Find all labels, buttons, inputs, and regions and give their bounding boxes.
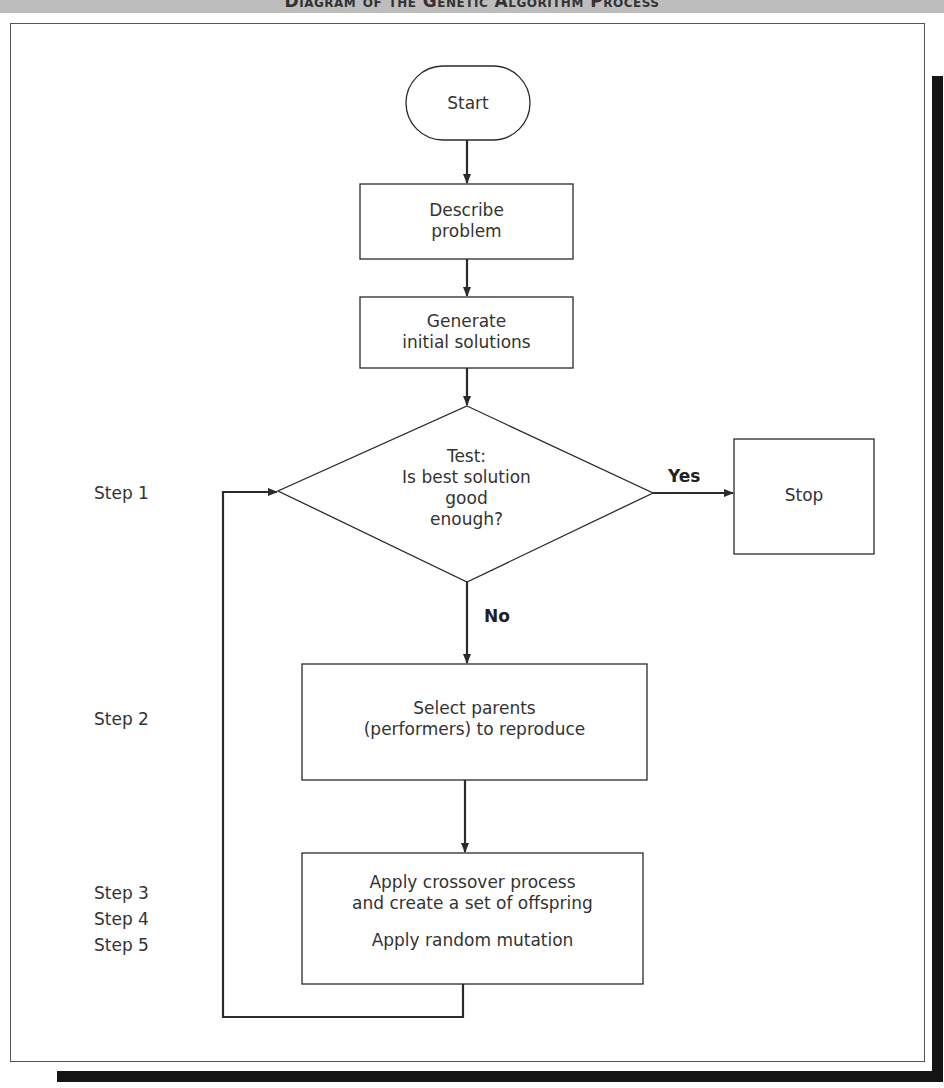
describe-label-line1: Describe <box>360 200 573 221</box>
decision-diamond: Test: Is best solution good enough? <box>360 446 573 530</box>
yes-edge-label: Yes <box>668 466 700 486</box>
select-box: Select parents (performers) to reproduce <box>302 698 647 740</box>
step-2-label: Step 2 <box>94 706 149 732</box>
select-label-line1: Select parents <box>302 698 647 719</box>
apply-label-line1: Apply crossover process <box>302 872 643 893</box>
describe-box: Describe problem <box>360 200 573 242</box>
test-label-line4: enough? <box>360 509 573 530</box>
step-3-label: Step 3 <box>94 880 149 906</box>
generate-box: Generate initial solutions <box>360 311 573 353</box>
test-label-line1: Test: <box>360 446 573 467</box>
no-edge-label: No <box>484 606 510 626</box>
apply-label-line3: Apply random mutation <box>302 930 643 951</box>
apply-box: Apply crossover process and create a set… <box>302 872 643 951</box>
select-label-line2: (performers) to reproduce <box>302 719 647 740</box>
apply-label-line2: and create a set of offspring <box>302 893 643 914</box>
start-label: Start <box>406 93 530 114</box>
step-5-label: Step 5 <box>94 932 149 958</box>
describe-label-line2: problem <box>360 221 573 242</box>
test-label-line2: Is best solution <box>360 467 573 488</box>
generate-label-line1: Generate <box>360 311 573 332</box>
step-4-label: Step 4 <box>94 906 149 932</box>
apply-label-spacer <box>302 914 643 930</box>
test-label-line3: good <box>360 488 573 509</box>
stop-label: Stop <box>734 485 874 506</box>
generate-label-line2: initial solutions <box>360 332 573 353</box>
step-1-label: Step 1 <box>94 480 149 506</box>
